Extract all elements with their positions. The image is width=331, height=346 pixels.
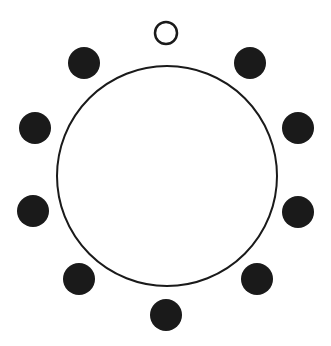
filled-dot xyxy=(19,112,51,144)
filled-dot xyxy=(63,263,95,295)
open-dot xyxy=(155,22,177,44)
filled-dot xyxy=(282,112,314,144)
diagram-canvas xyxy=(0,0,331,346)
filled-dot xyxy=(68,47,100,79)
filled-dot xyxy=(234,47,266,79)
central-circle xyxy=(57,66,277,286)
filled-dot xyxy=(241,263,273,295)
filled-dot xyxy=(150,299,182,331)
filled-dot xyxy=(282,196,314,228)
surrounding-circles xyxy=(17,22,314,331)
filled-dot xyxy=(17,195,49,227)
